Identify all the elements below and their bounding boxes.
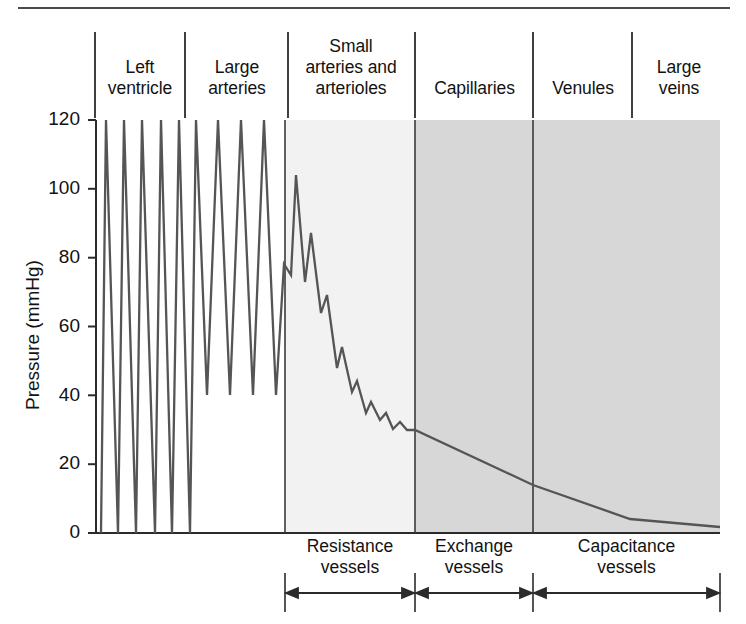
segment-label-small-arteries: Small arteries and arterioles	[290, 36, 412, 99]
vessel-group-label-line1: Resistance	[285, 536, 415, 557]
segment-label-line1: Capillaries	[418, 78, 531, 99]
y-tick-label-60: 60	[18, 315, 80, 337]
y-tick-label-100: 100	[18, 177, 80, 199]
segment-label-line1: Left	[97, 57, 183, 78]
y-tick-label-20: 20	[18, 452, 80, 474]
segment-label-line1: Large	[188, 57, 286, 78]
y-tick-label-120: 120	[18, 108, 80, 130]
segment-label-line1: Large	[636, 57, 722, 78]
segment-label-venules: Venules	[536, 78, 630, 99]
shade-band-capillaries	[415, 120, 533, 533]
vessel-group-label-exchange: Exchange vessels	[415, 536, 533, 578]
shade-band-venules-veins	[533, 120, 720, 533]
blood-pressure-figure: Pressure (mmHg) 120 100 80 60 40 20 0 Le…	[0, 0, 746, 624]
segment-label-line2: veins	[636, 78, 722, 99]
segment-label-line1: Small	[290, 36, 412, 57]
y-tick-label-80: 80	[18, 246, 80, 268]
vessel-group-arrows	[286, 588, 719, 598]
vessel-group-label-line2: vessels	[285, 557, 415, 578]
vessel-group-label-line2: vessels	[533, 557, 720, 578]
segment-label-line2: arteries	[188, 78, 286, 99]
vessel-group-label-resistance: Resistance vessels	[285, 536, 415, 578]
segment-label-large-veins: Large veins	[636, 57, 722, 99]
segment-label-line2: arteries and	[290, 57, 412, 78]
y-axis-ticks	[88, 120, 96, 533]
vessel-group-label-line1: Capacitance	[533, 536, 720, 557]
shade-band-arterioles	[285, 120, 415, 533]
segment-label-line3: arterioles	[290, 78, 412, 99]
segment-label-large-arteries: Large arteries	[188, 57, 286, 99]
segment-label-line1: Venules	[536, 78, 630, 99]
vessel-group-label-line2: vessels	[415, 557, 533, 578]
y-tick-label-0: 0	[18, 521, 80, 543]
segment-label-left-ventricle: Left ventricle	[97, 57, 183, 99]
y-tick-label-40: 40	[18, 384, 80, 406]
segment-label-line2: ventricle	[97, 78, 183, 99]
vessel-group-label-capacitance: Capacitance vessels	[533, 536, 720, 578]
vessel-group-label-line1: Exchange	[415, 536, 533, 557]
segment-label-capillaries: Capillaries	[418, 78, 531, 99]
